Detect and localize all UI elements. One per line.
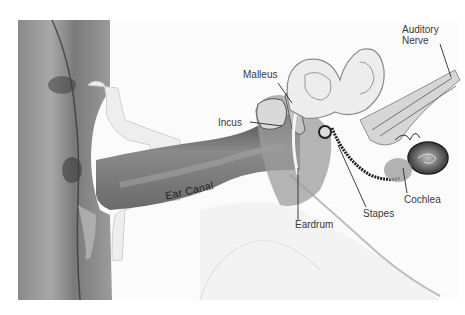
label-auditory-nerve-line2: Nerve [402,35,439,46]
label-stapes: Stapes [363,208,394,219]
label-auditory-nerve-line1: Auditory [402,24,439,35]
label-eardrum: Eardrum [295,219,333,230]
label-incus: Incus [218,117,242,128]
cochlea [408,142,448,174]
label-auditory-nerve: Auditory Nerve [402,24,439,46]
label-malleus: Malleus [243,69,277,80]
stapes [319,126,331,138]
ear-anatomy-illustration [0,0,465,315]
label-cochlea: Cochlea [404,194,441,205]
